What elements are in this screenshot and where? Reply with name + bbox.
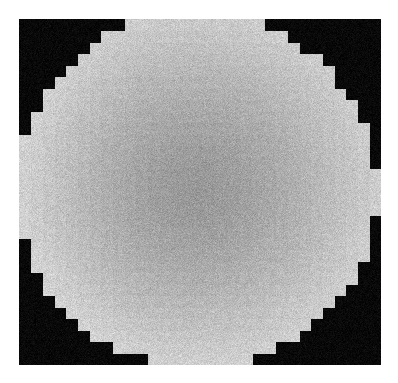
page-root [0, 0, 398, 383]
figure-frame [19, 19, 381, 365]
pixelated-disk-phantom-canvas [19, 19, 381, 365]
